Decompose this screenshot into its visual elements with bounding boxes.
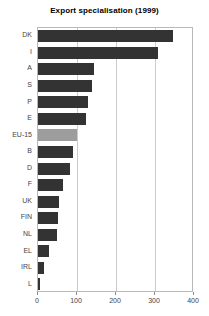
x-tick-mark-200 (115, 292, 116, 295)
bar-row (38, 227, 194, 244)
y-axis-label-d: D (27, 164, 32, 172)
y-axis-label-el: EL (23, 247, 32, 255)
bar-row (38, 94, 194, 111)
y-axis-label-uk: UK (22, 197, 32, 205)
bar-a (38, 63, 94, 75)
bar-row (38, 127, 194, 144)
y-axis-category-labels: DKIASPEEU-15BDFUKFINNLELIRLL (0, 27, 35, 292)
bars-layer (38, 28, 192, 291)
x-tick-mark-100 (76, 292, 77, 295)
y-axis-label-b: B (27, 147, 32, 155)
y-axis-label-irl: IRL (21, 263, 32, 271)
bar-row (38, 45, 194, 62)
x-tick-label-100: 100 (61, 297, 91, 305)
x-tick-label-0: 0 (22, 297, 52, 305)
y-axis-label-a: A (27, 64, 32, 72)
bar-irl (38, 262, 44, 274)
bar-row (38, 61, 194, 78)
y-axis-label-dk: DK (22, 31, 32, 39)
y-axis-label-p: P (27, 98, 32, 106)
bar-row (38, 78, 194, 95)
chart-title: Export specialisation (1999) (0, 6, 209, 16)
bar-row (38, 194, 194, 211)
bar-row (38, 243, 194, 260)
bar-b (38, 146, 73, 158)
y-axis-label-eu-15: EU-15 (12, 131, 32, 139)
export-specialisation-bar-chart: Export specialisation (1999) DKIASPEEU-1… (0, 0, 209, 316)
bar-dk (38, 30, 173, 42)
bar-row (38, 210, 194, 227)
bar-nl (38, 229, 57, 241)
y-axis-label-e: E (27, 114, 32, 122)
bar-row (38, 260, 194, 277)
x-tick-mark-400 (193, 292, 194, 295)
bar-fin (38, 212, 58, 224)
bar-f (38, 179, 63, 191)
y-axis-label-s: S (27, 81, 32, 89)
plot-area (37, 27, 193, 292)
bar-p (38, 96, 88, 108)
bar-row (38, 161, 194, 178)
x-tick-label-200: 200 (100, 297, 130, 305)
x-tick-label-400: 400 (178, 297, 208, 305)
x-tick-mark-0 (37, 292, 38, 295)
bar-l (38, 278, 40, 290)
y-axis-label-f: F (28, 180, 32, 188)
x-tick-label-300: 300 (139, 297, 169, 305)
bar-row (38, 144, 194, 161)
bar-e (38, 113, 86, 125)
bar-d (38, 163, 70, 175)
x-axis-ticks: 0100200300400 (0, 292, 209, 314)
x-tick-mark-300 (154, 292, 155, 295)
bar-i (38, 47, 158, 59)
y-axis-label-fin: FIN (21, 213, 32, 221)
y-axis-label-l: L (28, 280, 32, 288)
bar-row (38, 276, 194, 293)
bar-eu-15 (38, 129, 77, 141)
bar-el (38, 245, 49, 257)
bar-uk (38, 196, 59, 208)
y-axis-label-i: I (30, 48, 32, 56)
bar-row (38, 177, 194, 194)
bar-s (38, 80, 92, 92)
bar-row (38, 28, 194, 45)
bar-row (38, 111, 194, 128)
y-axis-label-nl: NL (23, 230, 32, 238)
